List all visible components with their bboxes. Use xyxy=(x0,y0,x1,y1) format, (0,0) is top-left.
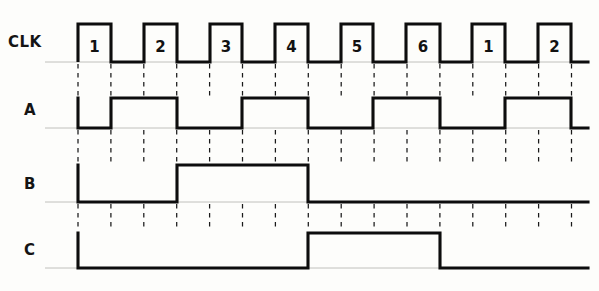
signal-rails xyxy=(45,62,588,268)
signal-a-label: A xyxy=(24,101,36,119)
signal-c-label: C xyxy=(24,241,36,259)
clock-pulse-numbers: 12345612 xyxy=(89,38,559,56)
grid-lines xyxy=(78,64,572,231)
timing-diagram-canvas: CLKABC 12345612 xyxy=(0,0,599,291)
signal-labels: CLKABC xyxy=(8,33,43,259)
clock-pulse-number: 2 xyxy=(155,38,165,56)
clock-pulse-number: 6 xyxy=(418,38,428,56)
signal-b-waveform xyxy=(78,165,588,202)
clock-pulse-number: 2 xyxy=(549,38,559,56)
clock-pulse-number: 3 xyxy=(221,38,231,56)
timing-diagram: CLKABC 12345612 xyxy=(0,0,599,291)
clock-pulse-number: 1 xyxy=(483,38,493,56)
signal-a-waveform xyxy=(78,98,588,128)
clock-pulse-number: 4 xyxy=(286,38,296,56)
signal-b-label: B xyxy=(24,175,36,193)
clock-pulse-number: 5 xyxy=(352,38,362,56)
clock-pulse-number: 1 xyxy=(89,38,99,56)
waveforms xyxy=(78,24,588,268)
signal-c-waveform xyxy=(78,233,588,268)
clk-label: CLK xyxy=(8,33,43,51)
